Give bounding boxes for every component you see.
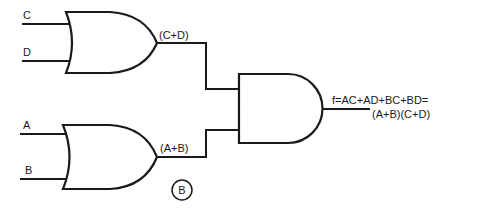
or-gate-top: [66, 12, 157, 73]
input-label-d: D: [23, 46, 31, 58]
input-label-b: B: [25, 164, 32, 176]
output-expression-line1: f=AC+AD+BC+BD=: [332, 94, 428, 106]
output-expression-line2: (A+B)(C+D): [372, 108, 430, 120]
figure-tag-label: B: [178, 184, 185, 196]
and-gate: [239, 74, 323, 143]
input-label-a: A: [23, 119, 31, 131]
label-c-plus-d: (C+D): [159, 29, 189, 41]
logic-circuit-diagram: C D (C+D) A B (A+B) f=AC+AD+BC+BD= (A+B)…: [0, 0, 481, 221]
or-gate-bottom: [63, 125, 157, 189]
input-label-c: C: [23, 9, 31, 21]
label-a-plus-b: (A+B): [160, 142, 188, 154]
wire-c-plus-d: [157, 43, 239, 89]
